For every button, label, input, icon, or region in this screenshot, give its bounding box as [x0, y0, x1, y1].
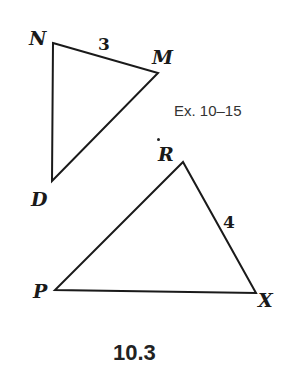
vertex-label-n: N	[29, 29, 46, 48]
vertex-label-x: X	[258, 291, 273, 310]
triangle-nmd	[52, 43, 158, 181]
exercise-reference: Ex. 10–15	[174, 103, 242, 118]
vertex-label-r: R	[158, 145, 174, 164]
side-label-nm: 3	[98, 36, 110, 53]
vertex-label-d: D	[31, 190, 47, 209]
figure-number: 10.3	[113, 342, 156, 364]
side-label-rx: 4	[223, 214, 235, 231]
stray-dot-mark	[157, 138, 160, 141]
vertex-label-m: M	[152, 48, 173, 67]
triangles-drawing	[0, 0, 290, 372]
figure-canvas: N M D 3 Ex. 10–15 R 4 P X 10.3	[0, 0, 290, 372]
vertex-label-p: P	[33, 282, 47, 301]
